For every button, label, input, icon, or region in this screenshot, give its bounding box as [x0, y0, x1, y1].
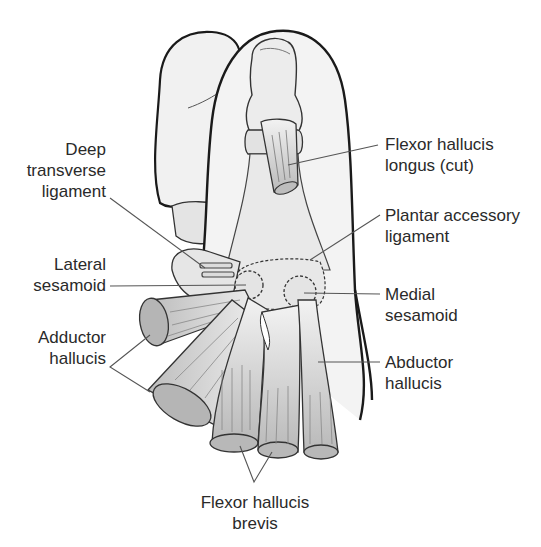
label-flexor-hallucis-brevis: Flexor hallucis brevis [180, 492, 330, 534]
label-medial-sesamoid: Medial sesamoid [385, 284, 458, 326]
label-line: brevis [180, 513, 330, 534]
label-line: Plantar accessory [385, 205, 520, 226]
label-line: ligament [385, 226, 520, 247]
label-line: hallucis [0, 348, 106, 369]
label-flexor-hallucis-longus: Flexor hallucis longus (cut) [385, 134, 494, 176]
label-line: Flexor hallucis [180, 492, 330, 513]
distal-phalanx [246, 39, 302, 132]
label-line: Flexor hallucis [385, 134, 494, 155]
label-line: transverse [0, 160, 106, 181]
label-deep-transverse-ligament: Deep transverse ligament [0, 139, 106, 202]
label-line: Medial [385, 284, 458, 305]
label-line: sesamoid [0, 275, 106, 296]
label-line: sesamoid [385, 305, 458, 326]
label-adductor-hallucis: Adductor hallucis [0, 327, 106, 369]
label-line: Abductor [385, 352, 453, 373]
label-plantar-accessory-ligament: Plantar accessory ligament [385, 205, 520, 247]
label-line: hallucis [385, 373, 453, 394]
label-lateral-sesamoid: Lateral sesamoid [0, 254, 106, 296]
label-line: Adductor [0, 327, 106, 348]
label-line: Deep [0, 139, 106, 160]
label-line: longus (cut) [385, 155, 494, 176]
label-abductor-hallucis: Abductor hallucis [385, 352, 453, 394]
label-line: ligament [0, 181, 106, 202]
leader-adductor-hallucis [110, 335, 150, 392]
label-line: Lateral [0, 254, 106, 275]
